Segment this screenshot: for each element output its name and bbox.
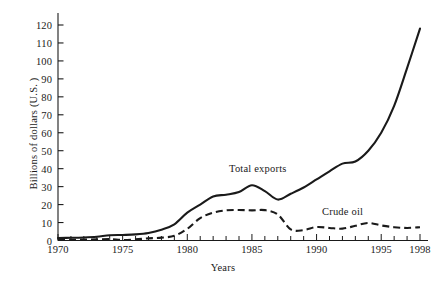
y-axis-ticks bbox=[58, 25, 64, 223]
series-label-total-exports: Total exports bbox=[229, 163, 287, 174]
chart-axes bbox=[58, 13, 428, 241]
series-label-crude-oil: Crude oil bbox=[322, 206, 363, 217]
x-tick-label: 1975 bbox=[112, 244, 133, 255]
y-tick-label: 110 bbox=[8, 37, 52, 48]
x-axis-title: Years bbox=[0, 262, 446, 273]
y-axis-title: Billions of dollars (U.S. ) bbox=[28, 54, 39, 214]
y-tick-label: 10 bbox=[8, 217, 52, 228]
y-tick-label: 120 bbox=[8, 20, 52, 31]
x-tick-label: 1998 bbox=[409, 244, 430, 255]
x-tick-label: 1990 bbox=[306, 244, 327, 255]
chart-figure: 0102030405060708090100110120 19701975198… bbox=[0, 0, 446, 287]
x-tick-label: 1970 bbox=[47, 244, 68, 255]
x-tick-label: 1985 bbox=[241, 244, 262, 255]
x-tick-label: 1995 bbox=[371, 244, 392, 255]
y-tick-label: 0 bbox=[8, 235, 52, 246]
x-tick-label: 1980 bbox=[177, 244, 198, 255]
series-line-total-exports bbox=[58, 29, 420, 238]
